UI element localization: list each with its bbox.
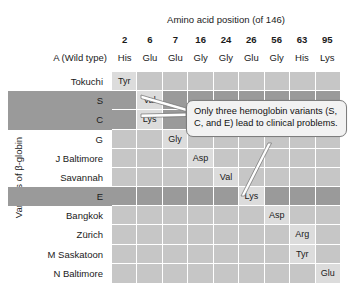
variant-cell-empty [239, 168, 264, 187]
variant-cell-filled: Val [214, 168, 239, 187]
variant-cell-empty [188, 206, 213, 225]
variant-cell-empty [214, 72, 239, 91]
table-row: Arg [112, 225, 340, 244]
table-row: Asp [112, 149, 340, 168]
row-label-zürich: Zürich [4, 225, 108, 244]
column-position-6: 6 [137, 34, 162, 45]
wild-type-row-label: A (Wild type) [8, 52, 107, 63]
variant-cell-empty [112, 110, 137, 129]
variant-cell-empty [290, 206, 315, 225]
variant-cell-empty [239, 264, 264, 283]
variant-cell-empty [265, 149, 290, 168]
variant-cell-empty [188, 187, 213, 206]
wild-type-value-26: Glu [239, 52, 264, 63]
wild-type-value-2: His [112, 52, 137, 63]
callout-box: Only three hemoglobin variants (S, C, an… [186, 100, 347, 137]
variant-cell-filled: Asp [265, 206, 290, 225]
variant-cell-filled: Gly [163, 130, 188, 149]
variant-cell-empty [137, 168, 162, 187]
variant-cell-empty [316, 149, 340, 168]
column-position-26: 26 [239, 34, 264, 45]
variant-cell-empty [112, 225, 137, 244]
variant-cell-empty [214, 187, 239, 206]
variant-cell-empty [239, 245, 264, 264]
wild-type-value-16: Gly [188, 52, 213, 63]
variant-cell-empty [290, 168, 315, 187]
row-label-s: S [4, 91, 108, 110]
variant-cell-empty [316, 206, 340, 225]
variant-cell-empty [112, 245, 137, 264]
variant-cell-empty [188, 264, 213, 283]
variant-cell-empty [265, 72, 290, 91]
wild-type-value-95: Lys [315, 52, 340, 63]
wild-type-value-63: His [289, 52, 314, 63]
variant-cell-empty [163, 91, 188, 110]
variant-cell-empty [137, 264, 162, 283]
variant-cell-empty [137, 245, 162, 264]
row-label-m-saskatoon: M Saskatoon [4, 245, 108, 264]
row-label-n-baltimore: N Baltimore [4, 264, 108, 283]
variant-cell-empty [112, 187, 137, 206]
variant-cell-empty [214, 245, 239, 264]
table-row: Lys [112, 187, 340, 206]
wild-type-value-7: Glu [163, 52, 188, 63]
variant-cell-empty [163, 72, 188, 91]
column-position-7: 7 [163, 34, 188, 45]
variant-cell-empty [316, 168, 340, 187]
wild-type-value-6: Glu [137, 52, 162, 63]
variant-cell-empty [163, 187, 188, 206]
variant-cell-empty [188, 245, 213, 264]
variant-cell-empty [239, 206, 264, 225]
variant-cell-empty [265, 264, 290, 283]
column-position-63: 63 [289, 34, 314, 45]
variant-cell-filled: Tyr [112, 72, 137, 91]
variant-cell-empty [290, 264, 315, 283]
variant-cell-empty [188, 72, 213, 91]
variant-cell-empty [239, 72, 264, 91]
variant-cell-empty [163, 264, 188, 283]
table-row: Asp [112, 206, 340, 225]
variant-cell-empty [214, 149, 239, 168]
hemoglobin-variants-figure: Amino acid position (of 146) Variants of… [0, 0, 363, 300]
variant-cell-empty [188, 168, 213, 187]
variant-cell-empty [290, 72, 315, 91]
variant-cell-empty [112, 130, 137, 149]
x-axis-title: Amino acid position (of 146) [112, 14, 340, 25]
callout-text: Only three hemoglobin variants (S, C, an… [194, 106, 338, 128]
variant-cell-filled: Tyr [290, 245, 315, 264]
column-position-16: 16 [188, 34, 213, 45]
variant-cell-empty [265, 245, 290, 264]
row-label-column: TokuchiSCGJ BaltimoreSavannahEBangkokZür… [4, 72, 108, 283]
variant-cell-empty [137, 149, 162, 168]
variant-cell-filled: Lys [137, 110, 162, 129]
wild-type-values-row: HisGluGluGlyGlyGluGlyHisLys [112, 52, 340, 63]
variant-cell-empty [163, 149, 188, 168]
variant-cell-empty [112, 91, 137, 110]
row-label-e: E [4, 187, 108, 206]
variant-cell-empty [265, 187, 290, 206]
variant-cell-empty [112, 149, 137, 168]
variant-cell-empty [265, 168, 290, 187]
table-row: Tyr [112, 245, 340, 264]
variant-cell-empty [316, 225, 340, 244]
variant-cell-empty [239, 149, 264, 168]
row-label-g: G [4, 130, 108, 149]
variant-cell-filled: Val [137, 91, 162, 110]
variant-cell-filled: Glu [316, 264, 340, 283]
variant-cell-empty [316, 187, 340, 206]
variant-cell-empty [239, 225, 264, 244]
row-label-bangkok: Bangkok [4, 206, 108, 225]
variant-cell-filled: Asp [188, 149, 213, 168]
variant-cell-filled: Lys [239, 187, 264, 206]
wild-type-value-24: Gly [213, 52, 238, 63]
variant-cell-empty [290, 187, 315, 206]
variant-cell-empty [163, 168, 188, 187]
variant-cell-empty [316, 72, 340, 91]
variant-cell-empty [163, 110, 188, 129]
column-position-95: 95 [315, 34, 340, 45]
variant-cell-empty [290, 149, 315, 168]
variant-cell-empty [214, 264, 239, 283]
variant-cell-empty [137, 130, 162, 149]
column-position-56: 56 [264, 34, 289, 45]
variant-cell-empty [214, 225, 239, 244]
